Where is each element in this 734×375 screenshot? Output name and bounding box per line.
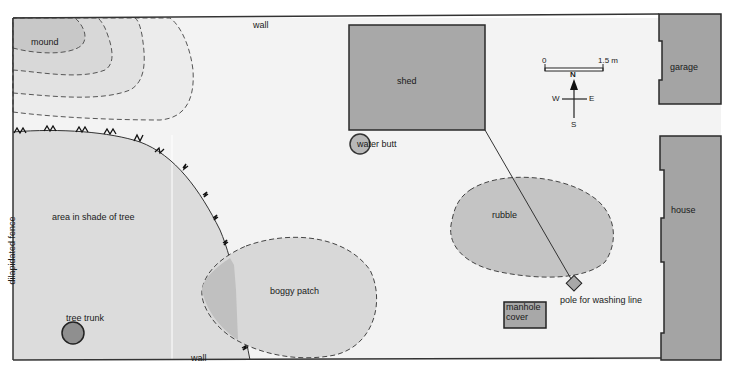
tree-trunk <box>62 322 84 344</box>
label-rubble: rubble <box>492 211 517 220</box>
label-manhole-line1: manhole <box>506 303 541 312</box>
label-manhole-line2: cover <box>506 313 528 322</box>
label-wall-bottom: wall <box>191 354 207 363</box>
label-fence: dilapidated fence <box>8 206 17 296</box>
label-area-shade: area in shade of tree <box>52 213 135 222</box>
label-garage: garage <box>670 63 698 72</box>
label-wall-top: wall <box>253 21 269 30</box>
label-house: house <box>671 206 696 215</box>
compass-e-label: E <box>589 95 594 103</box>
compass-s-label: S <box>571 121 576 129</box>
top-wall <box>13 14 659 18</box>
house <box>660 136 721 360</box>
label-boggy-patch: boggy patch <box>270 287 319 296</box>
shed <box>349 25 485 130</box>
label-tree-trunk: tree trunk <box>66 314 104 323</box>
label-water-butt: water butt <box>357 140 397 149</box>
scale-end-label: 1.5 m <box>598 57 618 65</box>
label-mound: mound <box>31 38 59 47</box>
mound-top <box>13 18 85 53</box>
scale-start-label: 0 <box>542 57 546 65</box>
garden-map <box>0 0 734 375</box>
compass-w-label: W <box>552 95 560 103</box>
compass-n-label: N <box>570 71 576 79</box>
label-pole: pole for washing line <box>560 296 642 305</box>
label-shed: shed <box>397 77 417 86</box>
garage <box>659 14 721 104</box>
